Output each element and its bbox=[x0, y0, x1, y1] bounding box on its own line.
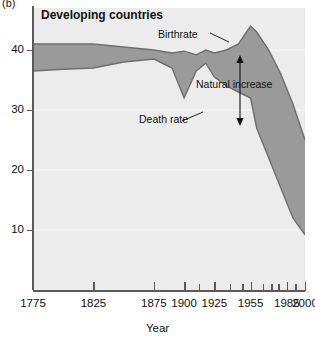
chart-title: Developing countries bbox=[41, 8, 163, 22]
figure-panel: (b) 10203040 177518251875190019251955198… bbox=[0, 0, 315, 342]
chart-svg bbox=[33, 8, 305, 290]
x-tick-label: 1925 bbox=[194, 297, 234, 309]
x-tick-major bbox=[154, 282, 155, 291]
y-tick bbox=[27, 50, 33, 51]
x-tick-label: 1775 bbox=[13, 297, 53, 309]
y-tick bbox=[27, 230, 33, 231]
annotation-birthrate: Birthrate bbox=[158, 28, 198, 40]
x-tick-label: 1955 bbox=[231, 297, 271, 309]
x-tick-major bbox=[184, 282, 185, 291]
y-tick bbox=[27, 170, 33, 171]
plot-area bbox=[33, 8, 305, 290]
x-tick-minor bbox=[242, 284, 243, 291]
x-tick-major bbox=[287, 282, 288, 291]
x-tick-minor bbox=[199, 284, 200, 291]
birthrate-leader-line bbox=[210, 33, 229, 42]
y-tick-label: 10 bbox=[0, 223, 24, 235]
annotation-death-rate: Death rate bbox=[139, 113, 188, 125]
x-tick-minor bbox=[278, 284, 279, 291]
x-axis-title: Year bbox=[0, 322, 315, 334]
x-tick-minor bbox=[230, 284, 231, 291]
y-tick-label: 40 bbox=[0, 43, 24, 55]
x-tick-major bbox=[305, 282, 306, 291]
y-axis-line bbox=[32, 6, 34, 290]
natural-increase-band bbox=[33, 26, 305, 235]
x-tick-major bbox=[33, 282, 34, 291]
y-tick-label: 20 bbox=[0, 163, 24, 175]
y-tick bbox=[27, 110, 33, 111]
y-tick-label: 30 bbox=[0, 103, 24, 115]
panel-label: (b) bbox=[2, 0, 15, 9]
x-axis-line bbox=[33, 290, 305, 292]
x-tick-minor bbox=[263, 284, 264, 291]
x-tick-major bbox=[214, 282, 215, 291]
annotation-natural-increase: Natural increase bbox=[196, 78, 272, 90]
x-tick-label: 2000 bbox=[285, 297, 315, 309]
x-tick-label: 1825 bbox=[73, 297, 113, 309]
x-tick-major bbox=[251, 282, 252, 291]
x-tick-minor bbox=[295, 284, 296, 291]
x-tick-minor bbox=[271, 284, 272, 291]
x-tick-major bbox=[93, 282, 94, 291]
